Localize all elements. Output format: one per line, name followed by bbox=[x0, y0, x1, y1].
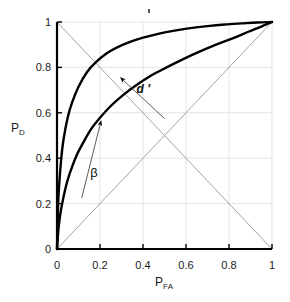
y-tick-label-4: 0.8 bbox=[27, 62, 51, 73]
y-tick-label-0: 0 bbox=[27, 244, 51, 255]
roc-figure: 00.20.40.60.81 00.20.40.60.81 PD PFA d '… bbox=[0, 0, 290, 302]
x-tick-label-1: 0.2 bbox=[91, 260, 109, 271]
annotation-d-prime-label: d ' bbox=[137, 83, 151, 95]
annotation-beta-label: β bbox=[90, 166, 97, 179]
y-axis-title: PD bbox=[11, 122, 25, 137]
x-tick-label-2: 0.4 bbox=[134, 260, 152, 271]
annotation-arrow-beta bbox=[82, 121, 101, 198]
x-tick-label-0: 0 bbox=[48, 260, 66, 271]
x-axis-title: PFA bbox=[155, 276, 173, 291]
x-axis-title-base: P bbox=[155, 275, 163, 289]
y-tick-label-5: 1 bbox=[27, 17, 51, 28]
y-axis-title-base: P bbox=[11, 121, 19, 135]
x-axis-title-subscript: FA bbox=[163, 282, 173, 291]
x-tick-label-5: 1 bbox=[263, 260, 281, 271]
y-tick-label-1: 0.2 bbox=[27, 199, 51, 210]
x-tick-label-3: 0.6 bbox=[177, 260, 195, 271]
y-axis-title-subscript: D bbox=[19, 128, 25, 137]
y-tick-label-3: 0.6 bbox=[27, 108, 51, 119]
x-tick-label-4: 0.8 bbox=[220, 260, 238, 271]
roc-plot-canvas bbox=[0, 0, 290, 302]
y-tick-label-2: 0.4 bbox=[27, 153, 51, 164]
reference-lines bbox=[57, 22, 272, 249]
page-speck-artifact bbox=[148, 9, 150, 13]
